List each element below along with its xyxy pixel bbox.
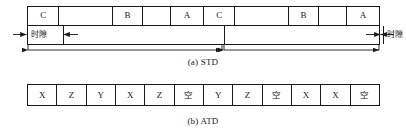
std-cell-a: A [171, 7, 204, 25]
std-cell-empty [143, 7, 171, 25]
atd-cell-x: X [28, 85, 57, 105]
atd-caption: (b) ATD [0, 117, 406, 126]
atd-figure: XZYXZ空YZ空XX空 (b) ATD [0, 72, 406, 138]
atd-cell-y: Y [204, 85, 233, 105]
std-cell-c: C [204, 7, 235, 25]
atd-cell-empty-slot: 空 [175, 85, 204, 105]
std-timeslot-row: CBACBA [28, 7, 379, 26]
atd-cell-z: Z [233, 85, 262, 105]
std-figure: CBACBA 时隙 时隙 (a) STD [0, 0, 406, 72]
atd-cell-empty-slot: 空 [351, 85, 379, 105]
std-cell-b: B [289, 7, 319, 25]
std-cell-empty [59, 7, 113, 25]
std-cell-empty [319, 7, 347, 25]
atd-cell-x: X [292, 85, 321, 105]
atd-cell-y: Y [87, 85, 116, 105]
std-cell-a: A [347, 7, 379, 25]
std-cell-empty [235, 7, 289, 25]
std-annotation-row: 时隙 时隙 [28, 26, 379, 44]
slot-label-right: 时隙 [387, 31, 403, 39]
atd-cell-z: Z [145, 85, 174, 105]
std-cell-c: C [28, 7, 59, 25]
std-frame-box: CBACBA 时隙 时隙 [27, 6, 380, 45]
slot-divider-left [63, 26, 64, 44]
std-cell-b: B [113, 7, 143, 25]
slot-label-left: 时隙 [31, 31, 47, 39]
atd-cell-x: X [321, 85, 350, 105]
atd-cell-x: X [116, 85, 145, 105]
slot-divider-right [383, 26, 384, 44]
atd-cell-row: XZYXZ空YZ空XX空 [27, 84, 380, 106]
atd-cell-z: Z [57, 85, 86, 105]
atd-cell-empty-slot: 空 [263, 85, 292, 105]
figure-page: CBACBA 时隙 时隙 (a) STD XZYXZ空YZ空XX空 (b) AT… [0, 0, 406, 138]
std-caption: (a) STD [0, 58, 406, 67]
frame-divider [224, 26, 225, 44]
